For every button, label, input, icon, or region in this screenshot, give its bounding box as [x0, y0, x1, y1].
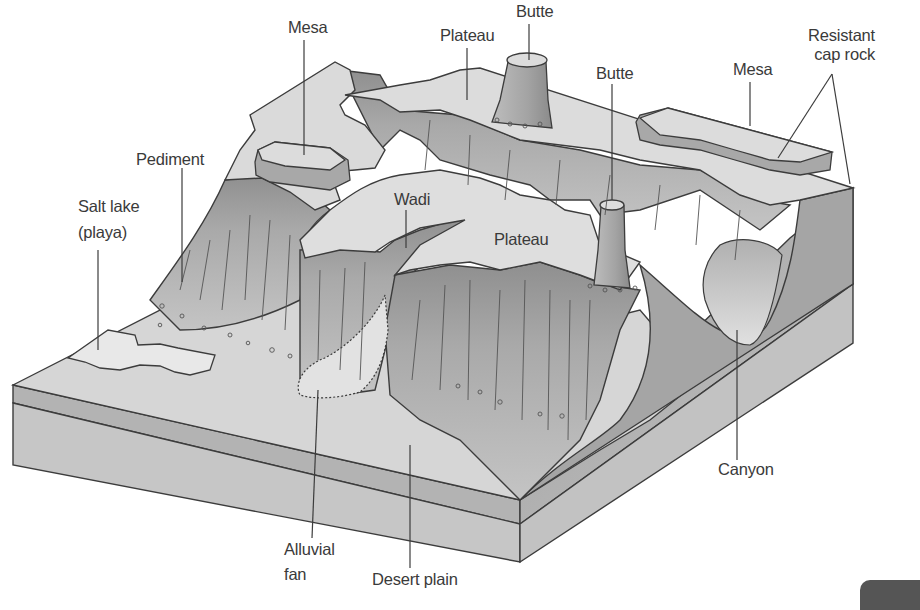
- page-corner-tab: [860, 580, 920, 610]
- label-resistant-cap-rock-line1: Resistant: [808, 26, 875, 45]
- label-salt-lake: Salt lake (playa): [78, 197, 140, 242]
- label-butte-right: Butte: [596, 64, 634, 83]
- label-desert-plain: Desert plain: [372, 570, 458, 589]
- label-plateau-top: Plateau: [440, 26, 495, 45]
- label-salt-lake-line2: (playa): [78, 223, 140, 242]
- label-resistant-cap-rock-line2: cap rock: [808, 45, 875, 64]
- label-mesa-left: Mesa: [288, 18, 328, 37]
- label-mesa-right: Mesa: [733, 60, 773, 79]
- label-pediment: Pediment: [136, 150, 204, 169]
- label-plateau-center: Plateau: [494, 230, 549, 249]
- leader-cap-rock-b: [832, 74, 850, 184]
- label-alluvial-fan: Alluvial fan: [284, 540, 335, 584]
- label-salt-lake-line1: Salt lake: [78, 197, 140, 216]
- label-butte-top: Butte: [516, 2, 554, 21]
- label-canyon: Canyon: [718, 460, 774, 479]
- label-wadi: Wadi: [394, 190, 430, 209]
- label-resistant-cap-rock: Resistant cap rock: [808, 26, 875, 64]
- label-alluvial-fan-line2: fan: [284, 565, 335, 584]
- label-alluvial-fan-line1: Alluvial: [284, 540, 335, 559]
